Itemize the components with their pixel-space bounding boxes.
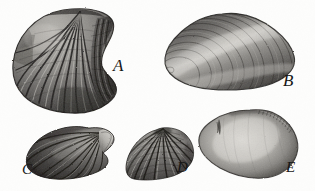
paper-texture: [0, 0, 315, 191]
specimen-illustrations: [0, 0, 315, 191]
specimen-label-e: E: [286, 160, 295, 175]
specimen-label-c: C: [22, 162, 32, 177]
specimen-label-b: B: [283, 72, 294, 89]
specimen-label-a: A: [113, 57, 124, 74]
specimen-label-d: D: [177, 160, 188, 175]
fossil-plate: A B C D E: [0, 0, 315, 191]
